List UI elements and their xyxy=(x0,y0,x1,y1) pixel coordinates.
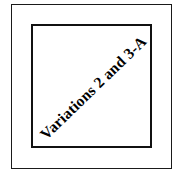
outer-border-rectangle: Variations 2 and 3-A xyxy=(11,4,172,169)
inner-border-rectangle: Variations 2 and 3-A xyxy=(31,24,152,148)
figure-canvas: Variations 2 and 3-A xyxy=(0,0,188,185)
diagonal-label-container: Variations 2 and 3-A xyxy=(33,26,154,150)
diagonal-caption-text: Variations 2 and 3-A xyxy=(37,33,151,144)
